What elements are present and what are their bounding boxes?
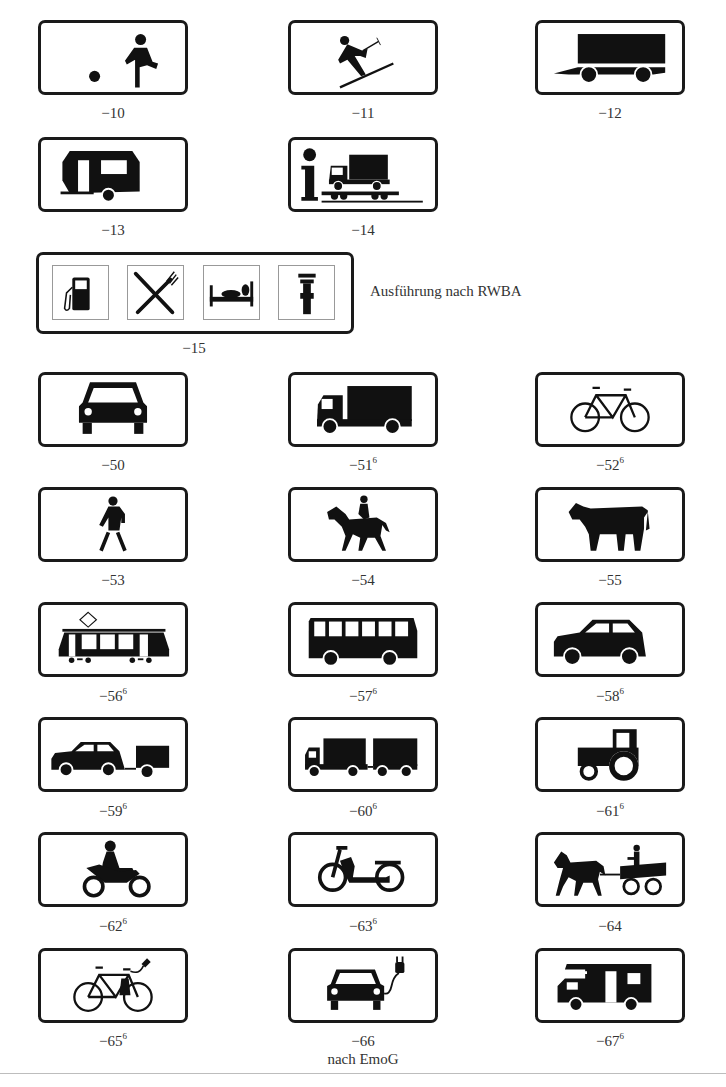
- sign-label: −596: [37, 803, 189, 820]
- sign-label: −606: [287, 803, 439, 820]
- sign-52: [535, 372, 685, 447]
- bicycle-icon: [538, 375, 682, 444]
- sign-label: −526: [534, 457, 686, 474]
- sign-label: −66: [287, 1033, 439, 1050]
- sign-label: −12: [534, 105, 686, 122]
- sign-50: [38, 372, 188, 447]
- sign-label: −566: [37, 688, 189, 705]
- cow-icon: [538, 490, 682, 559]
- emog-footnote: nach EmoG: [287, 1051, 439, 1068]
- horse-carriage-icon: [538, 835, 682, 904]
- sign-55: [535, 487, 685, 562]
- sign-63: [288, 832, 438, 907]
- e-bike-icon: [41, 951, 185, 1020]
- sign-51: [288, 372, 438, 447]
- sign-64: [535, 832, 685, 907]
- sign-56: [38, 602, 188, 677]
- bus-icon: [291, 605, 435, 674]
- sign-label: −516: [287, 457, 439, 474]
- sign-label: −10: [37, 105, 189, 122]
- car-front-icon: [41, 375, 185, 444]
- sign-66: [288, 948, 438, 1023]
- sign-label: −15: [118, 340, 270, 357]
- fuel-pump-icon: [52, 265, 109, 320]
- wrench-icon: [278, 265, 335, 320]
- tractor-icon: [538, 720, 682, 789]
- sign-65: [38, 948, 188, 1023]
- sign-15-services-panel: [36, 252, 354, 334]
- sign-label: −13: [37, 222, 189, 239]
- horse-rider-icon: [291, 490, 435, 559]
- car-side-icon: [538, 605, 682, 674]
- sign-label: −616: [534, 803, 686, 820]
- info-truck-on-rail-icon: [291, 140, 435, 209]
- car-with-trailer-icon: [41, 720, 185, 789]
- services-note: Ausführung nach RWBA: [370, 283, 522, 300]
- knife-fork-icon: [127, 265, 184, 320]
- sign-label: −656: [37, 1033, 189, 1050]
- electric-car-icon: [291, 951, 435, 1020]
- sign-label: −50: [37, 457, 189, 474]
- sign-13: [38, 137, 188, 212]
- sign-label: −53: [37, 572, 189, 589]
- sign-58: [535, 602, 685, 677]
- sign-label: −586: [534, 688, 686, 705]
- sign-14: [288, 137, 438, 212]
- sign-label: −676: [534, 1033, 686, 1050]
- sign-54: [288, 487, 438, 562]
- sign-label: −576: [287, 688, 439, 705]
- bed-icon: [203, 265, 260, 320]
- sign-57: [288, 602, 438, 677]
- trailer-icon: [538, 23, 682, 92]
- pedestrian-icon: [41, 490, 185, 559]
- motorcycle-icon: [41, 835, 185, 904]
- sign-label: −636: [287, 918, 439, 935]
- sign-10: [38, 20, 188, 95]
- child-playing-ball-icon: [41, 23, 185, 92]
- sign-label: −11: [287, 105, 439, 122]
- sign-61: [535, 717, 685, 792]
- truck-icon: [291, 375, 435, 444]
- sign-label: −54: [287, 572, 439, 589]
- sign-label: −64: [534, 918, 686, 935]
- caravan-icon: [41, 140, 185, 209]
- motorhome-icon: [538, 951, 682, 1020]
- sign-67: [535, 948, 685, 1023]
- sign-62: [38, 832, 188, 907]
- truck-with-trailer-icon: [291, 720, 435, 789]
- sign-11: [288, 20, 438, 95]
- sign-53: [38, 487, 188, 562]
- page-divider: [0, 1073, 726, 1074]
- sign-60: [288, 717, 438, 792]
- sign-label: −626: [37, 918, 189, 935]
- skier-icon: [291, 23, 435, 92]
- tram-icon: [41, 605, 185, 674]
- sign-label: −14: [287, 222, 439, 239]
- sign-59: [38, 717, 188, 792]
- moped-icon: [291, 835, 435, 904]
- sign-label: −55: [534, 572, 686, 589]
- sign-12: [535, 20, 685, 95]
